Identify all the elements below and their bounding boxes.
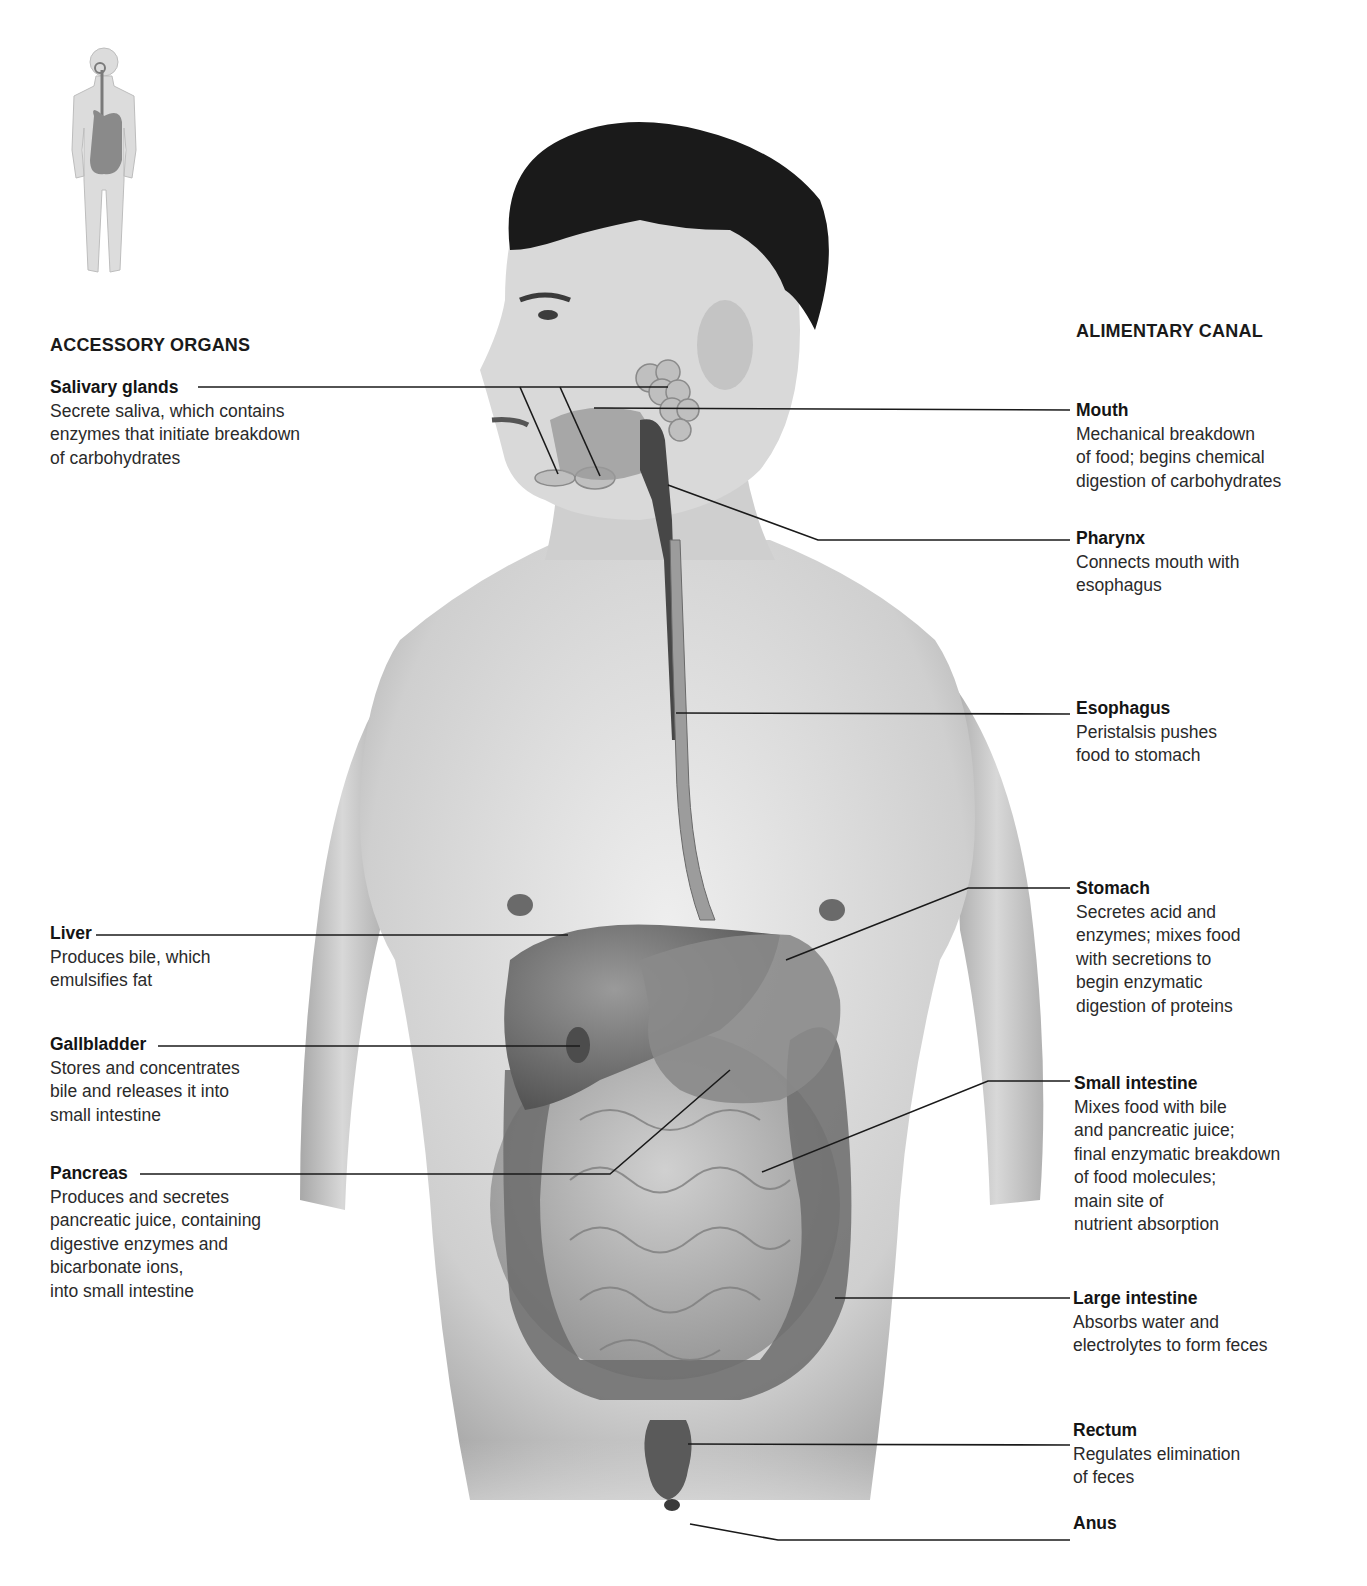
label-gallbladder: Gallbladder Stores and concentrates bile… (50, 1033, 240, 1127)
label-liver: Liver Produces bile, which emulsifies fa… (50, 922, 211, 993)
salivary-glands-description: Secrete saliva, which contains enzymes t… (50, 400, 300, 471)
esophagus-description: Peristalsis pushes food to stomach (1076, 721, 1217, 768)
gallbladder-description: Stores and concentrates bile and release… (50, 1057, 240, 1128)
small-intestine-description: Mixes food with bile and pancreatic juic… (1074, 1096, 1280, 1237)
stomach-description: Secretes acid and enzymes; mixes food wi… (1076, 901, 1240, 1019)
accessory-organs-heading: ACCESSORY ORGANS (50, 335, 250, 356)
label-mouth: Mouth Mechanical breakdown of food; begi… (1076, 399, 1281, 493)
pharynx-title: Pharynx (1076, 527, 1239, 551)
small-intestine-title: Small intestine (1074, 1072, 1280, 1096)
label-pharynx: Pharynx Connects mouth with esophagus (1076, 527, 1239, 598)
gallbladder-title: Gallbladder (50, 1033, 240, 1057)
stomach-title: Stomach (1076, 877, 1240, 901)
label-stomach: Stomach Secretes acid and enzymes; mixes… (1076, 877, 1240, 1018)
liver-title: Liver (50, 922, 211, 946)
mouth-description: Mechanical breakdown of food; begins che… (1076, 423, 1281, 494)
esophagus-title: Esophagus (1076, 697, 1217, 721)
rectum-title: Rectum (1073, 1419, 1240, 1443)
label-small-intestine: Small intestine Mixes food with bile and… (1074, 1072, 1280, 1237)
salivary-glands-title: Salivary glands (50, 376, 300, 400)
pancreas-title: Pancreas (50, 1162, 261, 1186)
rectum-description: Regulates elimination of feces (1073, 1443, 1240, 1490)
body-locator-icon (72, 48, 136, 272)
label-rectum: Rectum Regulates elimination of feces (1073, 1419, 1240, 1490)
anus-title: Anus (1073, 1512, 1117, 1536)
large-intestine-title: Large intestine (1073, 1287, 1268, 1311)
liver-description: Produces bile, which emulsifies fat (50, 946, 211, 993)
label-esophagus: Esophagus Peristalsis pushes food to sto… (1076, 697, 1217, 768)
pancreas-description: Produces and secretes pancreatic juice, … (50, 1186, 261, 1304)
label-large-intestine: Large intestine Absorbs water and electr… (1073, 1287, 1268, 1358)
alimentary-canal-heading: ALIMENTARY CANAL (1076, 321, 1263, 342)
pharynx-description: Connects mouth with esophagus (1076, 551, 1239, 598)
large-intestine-description: Absorbs water and electrolytes to form f… (1073, 1311, 1268, 1358)
label-salivary-glands: Salivary glands Secrete saliva, which co… (50, 376, 300, 470)
label-anus: Anus (1073, 1512, 1117, 1536)
mouth-title: Mouth (1076, 399, 1281, 423)
label-pancreas: Pancreas Produces and secretes pancreati… (50, 1162, 261, 1303)
